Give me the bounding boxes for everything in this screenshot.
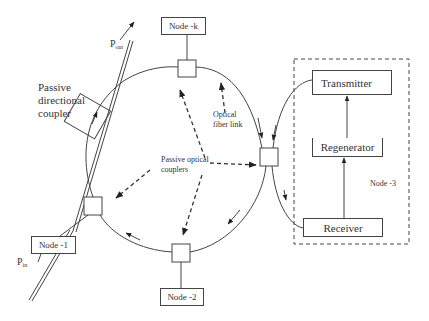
- pointer-to-fiber-link: [221, 83, 225, 113]
- diagram-lines: [0, 0, 429, 321]
- node-2-label: Node -2: [167, 292, 196, 302]
- node-k-box: Node -k: [161, 17, 206, 35]
- node-1-box: Node -1: [31, 236, 76, 254]
- link-to-receiver: [272, 166, 303, 228]
- ring-network-diagram: Node -k Node -2 Node -1 Transmitter Rege…: [0, 0, 429, 321]
- node-1-label: Node -1: [39, 240, 68, 250]
- poc-label-line2: couplers: [161, 166, 188, 174]
- node-2-box: Node -2: [160, 288, 204, 306]
- poc-label-line1: Passive optical: [161, 156, 209, 164]
- pointer-to-node-k-coupler: [180, 90, 205, 158]
- p-in-label: Pin: [17, 257, 27, 268]
- ring-arc-bottom-left: [100, 215, 172, 252]
- link-to-transmitter: [273, 80, 312, 148]
- coupler-label-line2: directional: [38, 95, 85, 106]
- pointer-to-node1-coupler: [116, 170, 150, 198]
- coupler-node-2: [172, 244, 190, 262]
- receiver-label: Receiver: [323, 222, 362, 234]
- ring-arc-left-top: [86, 67, 178, 197]
- regenerator-box: Regenerator: [312, 138, 383, 157]
- pointer-to-node3-coupler: [210, 163, 256, 165]
- ring-arc-top-right: [196, 67, 262, 148]
- fiber-label-line2: fiber link: [213, 121, 243, 129]
- p-out-sub: out: [116, 44, 124, 50]
- coupler-node-3: [260, 148, 278, 166]
- coupler-node-k: [178, 60, 196, 77]
- coupler-label-line3: coupler: [38, 108, 71, 119]
- transmitter-label: Transmitter: [321, 77, 372, 89]
- node-3-label: Node -3: [370, 180, 396, 188]
- p-in-sub: in: [23, 262, 28, 268]
- node-k-label: Node -k: [169, 21, 198, 31]
- receiver-box: Receiver: [303, 218, 383, 237]
- coupler-node-1: [84, 197, 102, 215]
- fiber-label-line1: Optical: [213, 111, 237, 119]
- p-out-label: Pout: [110, 39, 123, 50]
- coupler-label-line1: Passive: [38, 82, 71, 93]
- regenerator-label: Regenerator: [321, 141, 375, 153]
- pointer-to-node2-coupler: [183, 175, 202, 235]
- transmitter-box: Transmitter: [312, 70, 392, 95]
